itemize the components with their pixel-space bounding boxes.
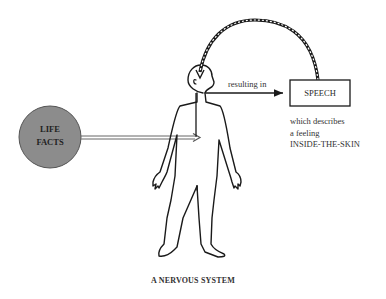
human-figure [153, 65, 241, 257]
feedback-arc [200, 20, 318, 80]
life-facts-arrow [81, 134, 200, 142]
nerve-path [196, 93, 283, 137]
speech-label: SPEECH [290, 80, 350, 106]
description-line1: which describes [290, 116, 360, 128]
description-line3: INSIDE-THE-SKIN [290, 139, 360, 151]
resulting-in-label: resulting in [228, 79, 266, 89]
description-line2: a feeling [290, 128, 360, 140]
life-facts-label: LIFE FACTS [18, 123, 82, 149]
description-text: which describes a feeling INSIDE-THE-SKI… [290, 116, 360, 151]
diagram-caption: A NERVOUS SYSTEM [0, 276, 386, 285]
life-facts-line1: LIFE [18, 123, 82, 136]
life-facts-line2: FACTS [18, 136, 82, 149]
